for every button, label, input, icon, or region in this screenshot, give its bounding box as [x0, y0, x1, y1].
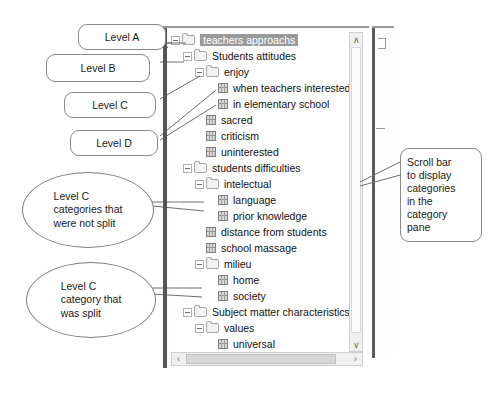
- expander-spacer: [207, 276, 216, 285]
- callout-level-d-text: Level D: [90, 137, 138, 150]
- collapse-expander-icon[interactable]: [195, 68, 204, 77]
- tree-node[interactable]: home: [171, 272, 349, 288]
- expander-spacer: [195, 132, 204, 141]
- callout-was-split: Level C category that was split: [26, 262, 156, 338]
- category-node-icon: [218, 83, 228, 93]
- collapse-expander-icon[interactable]: [195, 260, 204, 269]
- tree-node-label: milieu: [224, 258, 251, 270]
- callout-level-c-text: Level C: [86, 99, 134, 112]
- callout-scrollbar-note-text: Scroll bar to display categories in the …: [401, 156, 461, 234]
- figure-canvas: teachers approachsStudents attitudesenjo…: [0, 0, 494, 396]
- scroll-up-icon[interactable]: ∧: [350, 33, 362, 46]
- category-node-icon: [206, 227, 216, 237]
- category-node-icon: [218, 99, 228, 109]
- tree-node[interactable]: intelectual: [171, 176, 349, 192]
- tree-node[interactable]: in elementary school: [171, 96, 349, 112]
- tree-node[interactable]: society: [171, 288, 349, 304]
- category-node-icon: [206, 147, 216, 157]
- scroll-down-icon[interactable]: ∨: [350, 338, 362, 351]
- tree-node[interactable]: Subject matter characteristics: [171, 304, 349, 320]
- secondary-pane-line-stub: [376, 128, 385, 129]
- tree-node-label: in elementary school: [233, 98, 329, 110]
- tree-node-label: Subject matter characteristics: [212, 306, 349, 318]
- collapse-expander-icon[interactable]: [171, 36, 180, 45]
- tree-node[interactable]: teachers approachs: [171, 32, 349, 48]
- expander-spacer: [195, 228, 204, 237]
- callout-not-split: Level C categories that were not split: [22, 172, 154, 248]
- callout-level-c: Level C: [64, 92, 156, 118]
- vertical-scrollbar-thumb[interactable]: [351, 47, 361, 333]
- expander-spacer: [207, 196, 216, 205]
- collapse-expander-icon[interactable]: [195, 324, 204, 333]
- folder-icon: [206, 67, 219, 77]
- horizontal-scrollbar-thumb[interactable]: [186, 354, 336, 364]
- tree-node-label: school massage: [221, 242, 297, 254]
- tree-node[interactable]: criticism: [171, 128, 349, 144]
- tree-node-label: values: [224, 322, 254, 334]
- collapse-expander-icon[interactable]: [183, 52, 192, 61]
- tree-node[interactable]: language: [171, 192, 349, 208]
- tree-node-label: students difficulties: [212, 162, 301, 174]
- expander-spacer: [207, 100, 216, 109]
- category-node-icon: [218, 211, 228, 221]
- folder-icon: [182, 35, 195, 45]
- tree-node-label: universal: [233, 338, 275, 350]
- horizontal-scrollbar[interactable]: ‹ ›: [171, 352, 363, 366]
- category-tree[interactable]: teachers approachsStudents attitudesenjo…: [171, 32, 349, 352]
- tree-node[interactable]: prior knowledge: [171, 208, 349, 224]
- expander-spacer: [195, 116, 204, 125]
- tree-node-label: society: [233, 290, 266, 302]
- category-node-icon: [206, 243, 216, 253]
- expander-spacer: [207, 292, 216, 301]
- category-node-icon: [218, 291, 228, 301]
- tree-node-label: uninterested: [221, 146, 279, 158]
- category-node-icon: [218, 275, 228, 285]
- secondary-pane-splitter[interactable]: [372, 28, 375, 358]
- tree-node-label: sacred: [221, 114, 253, 126]
- expander-spacer: [195, 148, 204, 157]
- expander-spacer: [195, 244, 204, 253]
- folder-icon: [194, 51, 207, 61]
- category-node-icon: [206, 115, 216, 125]
- tree-node[interactable]: milieu: [171, 256, 349, 272]
- collapse-expander-icon[interactable]: [183, 164, 192, 173]
- folder-icon: [194, 307, 207, 317]
- tree-node[interactable]: school massage: [171, 240, 349, 256]
- tree-node-label: prior knowledge: [233, 210, 307, 222]
- tree-node-label: language: [233, 194, 276, 206]
- category-node-icon: [218, 339, 228, 349]
- category-node-icon: [218, 195, 228, 205]
- callout-level-a-text: Level A: [99, 31, 145, 44]
- scroll-right-icon[interactable]: ›: [349, 353, 362, 365]
- tree-node[interactable]: when teachers interested then: [171, 80, 349, 96]
- tree-node-label: home: [233, 274, 259, 286]
- tree-node[interactable]: enjoy: [171, 64, 349, 80]
- category-node-icon: [206, 131, 216, 141]
- tree-node[interactable]: Students attitudes: [171, 48, 349, 64]
- scroll-left-icon[interactable]: ‹: [172, 353, 185, 365]
- category-pane-splitter[interactable]: [163, 28, 167, 368]
- tree-node[interactable]: distance from students: [171, 224, 349, 240]
- callout-level-b-text: Level B: [74, 62, 121, 75]
- expander-spacer: [207, 84, 216, 93]
- tree-node-label: criticism: [221, 130, 259, 142]
- callout-not-split-text: Level C categories that were not split: [38, 190, 139, 231]
- secondary-pane: [372, 28, 394, 358]
- callout-was-split-text: Level C category that was split: [45, 280, 138, 321]
- collapse-expander-icon[interactable]: [195, 180, 204, 189]
- secondary-pane-top-edge: [372, 26, 394, 28]
- tree-node-label: teachers approachs: [200, 34, 298, 46]
- tree-node[interactable]: universal: [171, 336, 349, 352]
- tree-node-label: when teachers interested then: [233, 82, 349, 94]
- secondary-pane-node-stub: [378, 38, 386, 49]
- tree-node[interactable]: students difficulties: [171, 160, 349, 176]
- expander-spacer: [207, 212, 216, 221]
- tree-node[interactable]: sacred: [171, 112, 349, 128]
- callout-level-d: Level D: [70, 130, 158, 156]
- tree-node-label: intelectual: [224, 178, 271, 190]
- tree-node[interactable]: uninterested: [171, 144, 349, 160]
- vertical-scrollbar[interactable]: ∧ ∨: [349, 32, 363, 352]
- collapse-expander-icon[interactable]: [183, 308, 192, 317]
- tree-node[interactable]: values: [171, 320, 349, 336]
- callout-level-a: Level A: [78, 24, 166, 50]
